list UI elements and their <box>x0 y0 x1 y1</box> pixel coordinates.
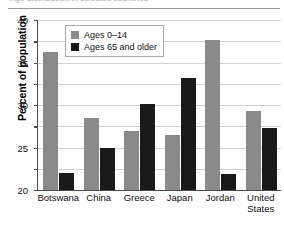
y-axis-tick-label: 35 <box>17 57 28 68</box>
y-axis-tick-label: 40 <box>17 15 28 26</box>
x-axis-category-label: Greece <box>124 193 155 204</box>
x-axis-category-label: Japan <box>167 193 193 204</box>
x-axis-category-label: United States <box>247 193 274 214</box>
bar-group: Japan <box>160 20 201 190</box>
bar-old[interactable] <box>100 148 115 191</box>
x-axis-category-label: China <box>86 193 111 204</box>
bar-old[interactable] <box>221 174 236 190</box>
y-axis-tick-label: 30 <box>17 100 28 111</box>
x-axis-category-label: Jordan <box>206 193 235 204</box>
y-axis-tick-label: 15 <box>17 227 28 228</box>
bar-young[interactable] <box>43 52 58 190</box>
bar-young[interactable] <box>165 135 180 190</box>
legend-item[interactable]: Ages 65 and older <box>71 41 157 53</box>
y-axis-tick-label: 25 <box>17 142 28 153</box>
bar-group: United States <box>241 20 282 190</box>
bar-old[interactable] <box>262 128 277 190</box>
bar-young[interactable] <box>124 131 139 190</box>
bar-old[interactable] <box>181 78 196 190</box>
bar-old[interactable] <box>140 104 155 190</box>
legend-swatch-old <box>71 43 79 51</box>
bar-group: Jordan <box>200 20 241 190</box>
legend-item-label: Ages 65 and older <box>84 42 157 52</box>
bar-young[interactable] <box>205 40 220 190</box>
header-divider-rule <box>8 8 280 9</box>
chart-legend: Ages 0–14Ages 65 and older <box>65 25 164 57</box>
bar-young[interactable] <box>84 118 99 190</box>
y-axis-tick-label: 20 <box>17 185 28 196</box>
bar-young[interactable] <box>246 111 261 190</box>
bar-old[interactable] <box>59 173 74 190</box>
x-axis-category-label: Botswana <box>37 193 79 204</box>
cutoff-caption-text: Age distribution in selected countries <box>10 0 148 3</box>
bar-chart-figure: Percent of population 0510152025303540 B… <box>0 10 284 228</box>
legend-swatch-young <box>71 31 79 39</box>
legend-item-label: Ages 0–14 <box>84 30 127 40</box>
legend-item[interactable]: Ages 0–14 <box>71 29 157 41</box>
